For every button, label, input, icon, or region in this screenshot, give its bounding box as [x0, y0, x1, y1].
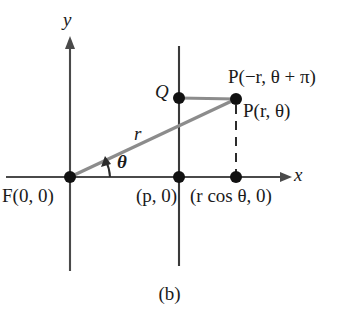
q-point-label: Q — [155, 82, 169, 101]
segment-q-to-p — [179, 98, 236, 99]
y-axis-arrowhead — [65, 36, 75, 49]
x-axis — [6, 172, 292, 182]
p-negative-r-label: P(−r, θ + π) — [228, 67, 316, 86]
polar-conic-figure: y x F(0, 0) (p, 0) (r cos θ, 0) Q P(−r, … — [0, 0, 339, 313]
x-axis-arrowhead — [280, 172, 292, 182]
x-axis-label: x — [294, 165, 302, 184]
point-focus — [64, 171, 76, 183]
radius-label: r — [134, 124, 141, 143]
y-axis-label: y — [63, 10, 71, 29]
point-q — [173, 92, 185, 104]
y-axis — [65, 36, 75, 271]
radius-ray — [70, 99, 236, 177]
point-p — [230, 93, 242, 105]
rcos-point-label: (r cos θ, 0) — [190, 186, 272, 205]
theta-label: θ — [117, 152, 127, 171]
coordinate-diagram — [0, 0, 339, 313]
point-p-on-axis — [173, 171, 185, 183]
point-rcos-on-axis — [230, 171, 242, 183]
directrix-point-label: (p, 0) — [136, 186, 177, 205]
figure-caption: (b) — [0, 283, 339, 305]
p-r-theta-label: P(r, θ) — [243, 101, 290, 120]
focus-label: F(0, 0) — [2, 186, 54, 205]
